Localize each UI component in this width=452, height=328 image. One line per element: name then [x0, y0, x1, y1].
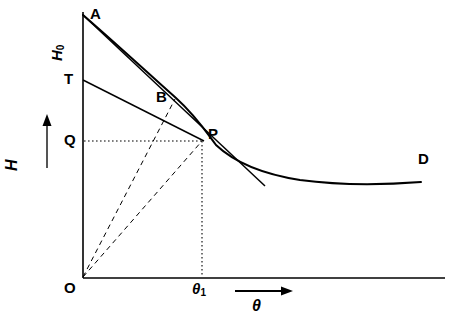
h-curve	[83, 15, 421, 184]
label-h-zero: H0	[49, 45, 66, 61]
x-axis-label: θ	[252, 298, 261, 314]
label-point-b: B	[156, 89, 167, 104]
label-point-p: P	[208, 126, 218, 141]
h-axis-arrow-icon	[43, 114, 52, 168]
label-point-d: D	[418, 151, 429, 166]
y-axis-label: H	[4, 159, 20, 171]
chord-t-p	[83, 80, 204, 141]
figure-canvas: H0 A T B Q P D O θ1 H θ	[0, 0, 452, 328]
label-theta-one: θ1	[192, 281, 206, 298]
label-point-t: T	[64, 71, 73, 86]
label-point-q: Q	[64, 132, 76, 147]
theta-axis-arrow-icon	[235, 287, 293, 296]
label-point-a: A	[90, 6, 101, 21]
label-origin: O	[64, 280, 76, 295]
